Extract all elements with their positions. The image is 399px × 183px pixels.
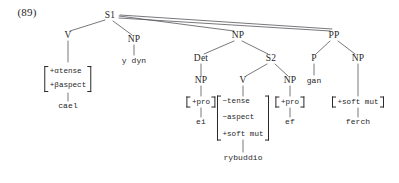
branch-s1-pp	[119, 18, 330, 31]
tree-node-np-det[interactable]: NP	[195, 76, 208, 86]
feature-row: +pro	[192, 98, 210, 106]
branch-s1-pp-parallel	[120, 15, 332, 29]
terminal-y-dyn[interactable]: y dyn	[122, 57, 147, 65]
feature-row: +soft mut	[337, 98, 378, 106]
tree-node-s1[interactable]: S1	[105, 11, 115, 21]
feature-row: +pro	[281, 98, 299, 106]
branch-s2-np	[275, 64, 288, 76]
feature-row: +βaspect	[50, 83, 86, 91]
tree-node-v-matrix[interactable]: V	[64, 31, 71, 41]
branch-pp-np	[338, 41, 355, 54]
feature-rows: +αtense +βaspect	[48, 66, 87, 92]
feature-matrix-rybuddio[interactable]: −tense −aspect +soft mut	[217, 96, 269, 141]
feature-rows: +pro	[190, 97, 211, 108]
branch-s1-np-subject	[113, 21, 132, 35]
tree-node-np-ef[interactable]: NP	[284, 76, 297, 86]
example-number: (89)	[17, 7, 36, 18]
branch-pp-p	[316, 41, 330, 54]
feature-rows: −tense −aspect +soft mut	[221, 96, 265, 141]
branch-s1-v	[70, 20, 105, 31]
bracket-right	[88, 66, 92, 92]
branch-np-det	[204, 41, 234, 54]
tree-node-det[interactable]: Det	[194, 54, 208, 64]
bracket-right	[212, 97, 216, 108]
bracket-right	[301, 97, 305, 108]
bracket-right	[380, 97, 384, 108]
terminal-cael[interactable]: cael	[58, 102, 78, 110]
bracket-right	[265, 96, 269, 141]
branch-s2-v	[246, 64, 267, 76]
feature-row: +αtense	[50, 68, 86, 76]
feature-matrix-ei[interactable]: +pro	[186, 97, 215, 108]
terminal-rybuddio[interactable]: rybuddio	[223, 154, 262, 162]
terminal-ferch[interactable]: ferch	[346, 118, 371, 126]
tree-node-s2[interactable]: S2	[266, 54, 276, 64]
tree-node-v-embedded[interactable]: V	[239, 76, 246, 86]
feature-row: −aspect	[222, 114, 263, 122]
terminal-ef[interactable]: ef	[285, 118, 295, 126]
tree-node-np-object[interactable]: NP	[232, 31, 245, 41]
terminal-ei[interactable]: ei	[196, 118, 206, 126]
feature-row: −tense	[222, 97, 263, 105]
feature-matrix-ef[interactable]: +pro	[275, 97, 304, 108]
tree-node-p[interactable]: P	[311, 54, 316, 64]
branch-s1-np-object	[119, 16, 234, 31]
feature-rows: +pro	[279, 97, 300, 108]
feature-rows: +soft mut	[336, 97, 380, 108]
tree-node-pp[interactable]: PP	[329, 31, 340, 41]
feature-matrix-cael[interactable]: +αtense +βaspect	[44, 66, 91, 92]
feature-row: +soft mut	[222, 131, 263, 139]
terminal-gan[interactable]: gan	[307, 77, 322, 85]
tree-node-np-subject[interactable]: NP	[128, 35, 141, 45]
branch-np-s2	[242, 41, 268, 54]
feature-matrix-ferch[interactable]: +soft mut	[332, 97, 384, 108]
tree-node-np-ferch[interactable]: NP	[352, 54, 365, 64]
